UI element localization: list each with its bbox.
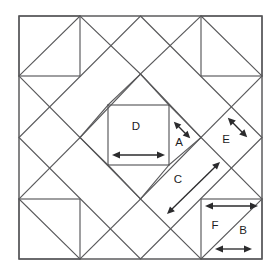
- segment-label-C: C: [174, 173, 182, 185]
- segment-label-A: A: [175, 136, 183, 148]
- segment-label-B: B: [239, 224, 247, 236]
- segment-label-F: F: [211, 219, 218, 231]
- diagram-background: [0, 0, 276, 275]
- segment-label-D: D: [132, 120, 140, 132]
- segment-label-E: E: [222, 133, 230, 145]
- diagram-canvas: D A E C F B: [0, 0, 276, 275]
- quilt-block-diagram: D A E C F B: [0, 0, 276, 275]
